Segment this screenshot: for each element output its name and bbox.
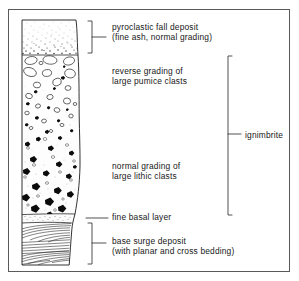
label-base-surge-deposit-line2: (with planar and cross bedding) bbox=[112, 246, 234, 256]
label-normal-grading-line2: large lithic clasts bbox=[112, 171, 180, 181]
unit-normal-graded-lithics bbox=[22, 135, 82, 217]
label-ignimbrite-line1: ignimbrite bbox=[245, 130, 283, 140]
label-normal-grading-line1: normal grading of bbox=[112, 161, 180, 171]
label-pyroclastic-fall-deposit: pyroclastic fall deposit (fine ash, norm… bbox=[112, 22, 212, 43]
label-base-surge-deposit: base surge deposit (with planar and cros… bbox=[112, 236, 234, 257]
label-reverse-grading: reverse grading of large pumice clasts bbox=[112, 66, 187, 87]
label-fine-basal-layer: fine basal layer bbox=[112, 212, 171, 222]
label-fine-basal-layer-line1: fine basal layer bbox=[112, 212, 171, 222]
unit-reverse-graded-pumice bbox=[22, 55, 80, 135]
label-base-surge-deposit-line1: base surge deposit bbox=[112, 236, 234, 246]
label-pyroclastic-fall-deposit-line2: (fine ash, normal grading) bbox=[112, 32, 212, 42]
label-pyroclastic-fall-deposit-line1: pyroclastic fall deposit bbox=[112, 22, 212, 32]
label-ignimbrite: ignimbrite bbox=[245, 130, 283, 140]
stratigraphic-column-figure: pyroclastic fall deposit (fine ash, norm… bbox=[0, 0, 299, 281]
label-reverse-grading-line2: large pumice clasts bbox=[112, 76, 187, 86]
unit-base-surge-deposit bbox=[22, 223, 74, 267]
label-reverse-grading-line1: reverse grading of bbox=[112, 66, 187, 76]
unit-pyroclastic-fall-deposit bbox=[22, 20, 80, 55]
label-normal-grading: normal grading of large lithic clasts bbox=[112, 161, 180, 182]
